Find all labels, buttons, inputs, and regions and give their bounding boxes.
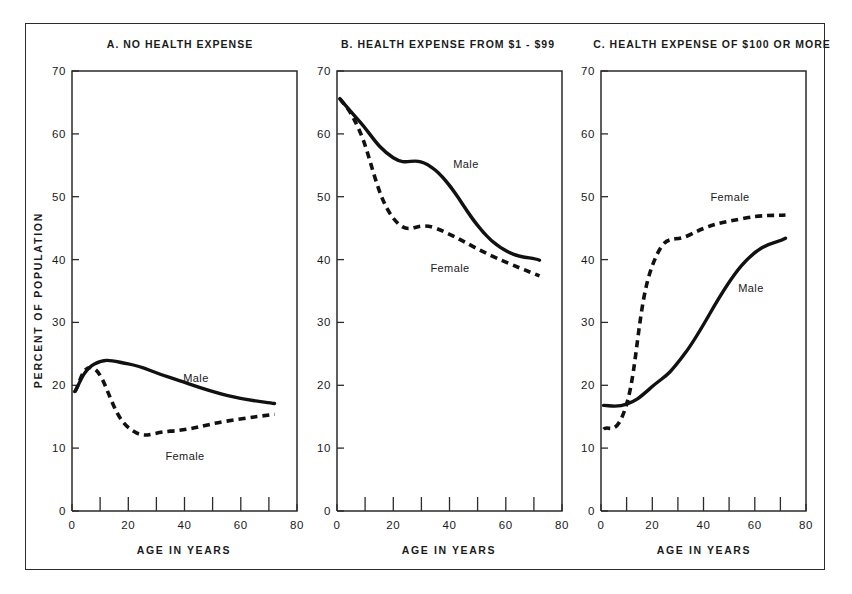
panel-b-y-ticks [337, 71, 344, 511]
panel-b-female-label: Female [430, 262, 469, 274]
panel-b-y-tick-labels: 0 10 20 30 40 50 60 70 [317, 65, 331, 517]
panel-a-xtick-40: 40 [178, 519, 192, 531]
panel-c-xtick-80: 80 [799, 519, 813, 531]
panel-c-female-curve [604, 215, 786, 429]
panel-a-title: A. NO HEALTH EXPENSE [107, 38, 253, 50]
panel-b-female-curve [340, 99, 540, 276]
figure-root: PERCENT OF POPULATION A. NO HEALTH EXPEN… [0, 0, 852, 594]
panel-a-y-tick-labels: 0 10 20 30 40 50 60 70 [52, 65, 66, 517]
panel-c-x-ticks [601, 497, 806, 511]
panel-a-xtick-0: 0 [69, 519, 76, 531]
panel-b-x-axis-title: AGE IN YEARS [402, 544, 496, 556]
panel-b-ytick-60: 60 [317, 128, 331, 140]
panel-c-ytick-60: 60 [581, 128, 595, 140]
panel-c-ytick-20: 20 [581, 379, 595, 391]
panel-b-ytick-20: 20 [317, 379, 331, 391]
panel-b-ytick-70: 70 [317, 65, 331, 77]
chart-canvas: PERCENT OF POPULATION A. NO HEALTH EXPEN… [0, 0, 852, 594]
panel-b-male-label: Male [453, 158, 478, 170]
panel-c-ytick-30: 30 [581, 316, 595, 328]
y-axis-title: PERCENT OF POPULATION [32, 212, 44, 388]
panel-c-y-ticks [601, 71, 608, 511]
panel-c-male-label: Male [738, 282, 763, 294]
panel-a-female-label: Female [165, 450, 204, 462]
panel-a-ytick-0: 0 [59, 505, 66, 517]
panel-b-xtick-80: 80 [555, 519, 569, 531]
panel-a-ytick-40: 40 [52, 254, 66, 266]
panel-c-title: C. HEALTH EXPENSE OF $100 OR MORE [593, 38, 831, 50]
panel-c-xtick-20: 20 [645, 519, 659, 531]
panel-c-ytick-70: 70 [581, 65, 595, 77]
panel-b: B. HEALTH EXPENSE FROM $1 - $99 0 10 20 … [317, 38, 569, 556]
panel-a-xtick-60: 60 [234, 519, 248, 531]
panel-b-x-tick-labels: 0 20 40 60 80 [334, 519, 570, 531]
panel-c-ytick-50: 50 [581, 191, 595, 203]
panel-a-ytick-10: 10 [52, 442, 66, 454]
panel-a-ytick-30: 30 [52, 316, 66, 328]
panel-a-ytick-70: 70 [52, 65, 66, 77]
panel-b-x-ticks [337, 497, 562, 511]
panel-c-ytick-0: 0 [588, 505, 595, 517]
panel-b-ytick-10: 10 [317, 442, 331, 454]
panel-a-male-label: Male [183, 372, 208, 384]
panel-b-xtick-60: 60 [499, 519, 513, 531]
y-axis-title-group: PERCENT OF POPULATION [32, 212, 44, 388]
panel-b-male-curve [340, 99, 540, 261]
panel-a-y-ticks [72, 71, 79, 511]
panel-b-xtick-20: 20 [386, 519, 400, 531]
panel-c: C. HEALTH EXPENSE OF $100 OR MORE 0 10 2… [581, 38, 831, 556]
panel-a-xtick-80: 80 [290, 519, 304, 531]
panel-c-x-tick-labels: 0 20 40 60 80 [598, 519, 814, 531]
panel-c-female-label: Female [710, 191, 749, 203]
panel-a-ytick-60: 60 [52, 128, 66, 140]
panel-b-xtick-0: 0 [334, 519, 341, 531]
panel-c-ytick-40: 40 [581, 254, 595, 266]
panel-c-ytick-10: 10 [581, 442, 595, 454]
panel-b-title: B. HEALTH EXPENSE FROM $1 - $99 [341, 38, 555, 50]
panel-b-ytick-0: 0 [324, 505, 331, 517]
panel-a-ytick-50: 50 [52, 191, 66, 203]
panel-c-axes-frame [601, 71, 806, 511]
panel-a-ytick-20: 20 [52, 379, 66, 391]
panel-b-ytick-40: 40 [317, 254, 331, 266]
panel-b-ytick-30: 30 [317, 316, 331, 328]
panel-a-x-tick-labels: 0 20 40 60 80 [69, 519, 305, 531]
panel-a: A. NO HEALTH EXPENSE 0 10 20 30 40 5 [52, 38, 304, 556]
panel-a-xtick-20: 20 [121, 519, 135, 531]
panel-c-xtick-0: 0 [598, 519, 605, 531]
panel-a-x-ticks [72, 497, 297, 511]
panel-a-x-axis-title: AGE IN YEARS [137, 544, 231, 556]
panel-b-xtick-40: 40 [443, 519, 457, 531]
panel-c-xtick-40: 40 [697, 519, 711, 531]
panel-a-axes-frame [72, 71, 297, 511]
panel-c-xtick-60: 60 [748, 519, 762, 531]
panel-b-ytick-50: 50 [317, 191, 331, 203]
panel-c-y-tick-labels: 0 10 20 30 40 50 60 70 [581, 65, 595, 517]
panel-c-x-axis-title: AGE IN YEARS [657, 544, 751, 556]
